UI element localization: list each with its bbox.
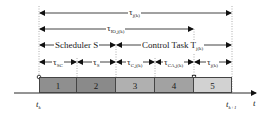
tau-sub: SC [57,63,63,68]
segment-block-4: 4 [155,77,194,93]
segment-block-5: 5 [194,77,232,93]
tick-label-end: tk+1 [226,99,237,110]
tau-sub: CA,j(k) [168,63,183,68]
segment-block-1: 1 [39,77,77,93]
control-task-sub: j(k) [196,46,203,51]
segment-label-4: τCA,j(k) [163,57,184,71]
segment-label-3: τC,j(k) [126,57,143,71]
span-label-io: τIO,j(k) [106,23,125,37]
segment-block-2: 2 [77,77,116,93]
segment-label-1: τSC [52,57,64,71]
tick-sub: k [39,105,41,110]
tau-sub: j(k) [211,63,218,68]
axis-label-time: t [253,98,256,108]
span-label-total: τj(k) [128,7,141,21]
segment-block-3: 3 [116,77,155,93]
tau-sub: IO,j(k) [111,29,125,34]
span-label-control-task: Control Task Tj(k) [141,40,204,54]
tick-label-start: tk [36,99,41,110]
segment-label-5: τj(k) [206,57,219,71]
scheduler-label: Scheduler S [55,40,98,50]
tau-sub: C,j(k) [131,63,143,68]
segment-label-2: τS [92,57,100,71]
tau-sub: S [97,63,100,68]
tau-sub: j(k) [133,13,140,18]
span-label-scheduler: Scheduler S [54,40,99,50]
control-task-label: Control Task T [142,40,196,50]
tick-sub: k+1 [229,105,237,110]
